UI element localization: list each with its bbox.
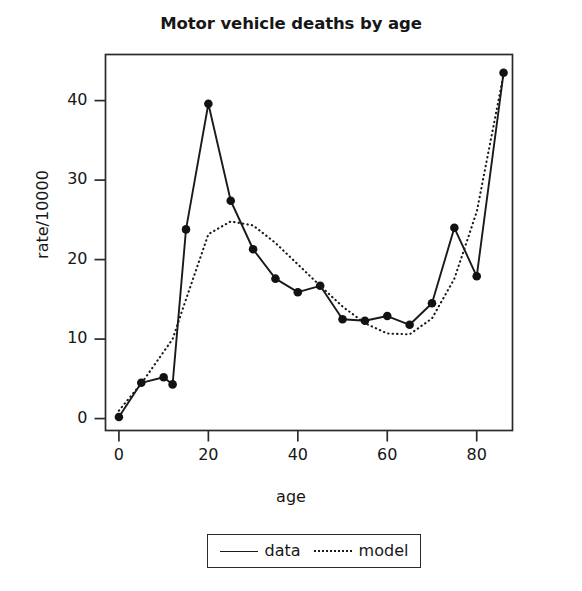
data-point [204, 99, 213, 108]
series-line-model [119, 74, 504, 410]
data-point [271, 274, 280, 283]
data-point [405, 320, 414, 329]
data-point [294, 288, 303, 297]
data-point [450, 223, 459, 232]
data-point [115, 413, 124, 422]
x-axis-tick-label: 0 [99, 445, 139, 464]
data-point [249, 245, 258, 254]
y-axis-tick-label: 20 [48, 249, 88, 268]
legend-line-swatch [220, 551, 258, 552]
data-point [472, 272, 481, 281]
y-axis-tick-label: 0 [48, 408, 88, 427]
data-series-group [115, 68, 508, 421]
legend-label: model [359, 543, 409, 559]
y-axis-tick-label: 10 [48, 328, 88, 347]
x-axis-tick-label: 80 [457, 445, 497, 464]
y-axis-tick-label: 40 [48, 90, 88, 109]
chart-figure: Motor vehicle deaths by age rate/10000 a… [0, 0, 582, 591]
x-axis-ticks [119, 431, 477, 442]
x-axis-tick-label: 60 [367, 445, 407, 464]
series-line-data [119, 73, 504, 417]
legend-label: data [265, 543, 301, 559]
legend-entry-data: data [220, 543, 301, 559]
data-point [316, 282, 325, 291]
x-axis-tick-label: 20 [188, 445, 228, 464]
data-point [338, 315, 347, 324]
chart-legend: datamodel [207, 534, 421, 568]
y-axis-tick-label: 30 [48, 169, 88, 188]
data-point [428, 299, 437, 308]
data-point [226, 196, 235, 205]
data-point [383, 312, 392, 321]
data-point [168, 380, 177, 389]
data-point [182, 225, 191, 234]
y-axis-ticks [95, 101, 106, 419]
legend-line-swatch [314, 550, 352, 552]
x-axis-tick-label: 40 [278, 445, 318, 464]
data-point [159, 373, 168, 382]
legend-entry-model: model [314, 543, 409, 559]
data-point [499, 68, 508, 77]
